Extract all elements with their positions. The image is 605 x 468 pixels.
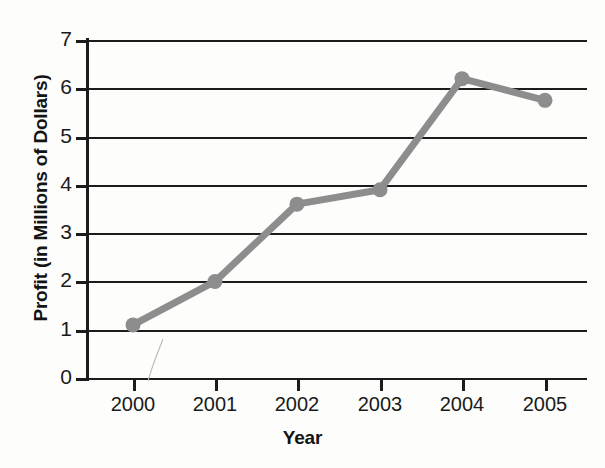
x-axis-title: Year (0, 427, 605, 449)
x-tick-label-2001: 2001 (179, 394, 251, 414)
x-tick-label-2002: 2002 (261, 394, 333, 414)
gridline-1 (88, 330, 587, 332)
y-tick-mark-6 (76, 88, 89, 91)
x-tick-mark-2002 (297, 378, 300, 391)
x-tick-mark-2005 (545, 378, 548, 391)
y-tick-label-7: 7 (38, 28, 72, 49)
x-tick-label-2000: 2000 (97, 394, 169, 414)
gridline-5 (88, 137, 587, 139)
plot-area (88, 40, 587, 378)
y-tick-mark-2 (76, 281, 89, 284)
y-tick-label-4: 4 (38, 173, 72, 194)
y-tick-label-5: 5 (38, 125, 72, 146)
gridline-4 (88, 185, 587, 187)
y-tick-mark-0 (76, 378, 89, 381)
gridline-3 (88, 233, 587, 235)
x-tick-label-2004: 2004 (426, 394, 498, 414)
x-tick-label-2005: 2005 (509, 394, 581, 414)
line-chart: Profit (in Millions of Dollars) Year 7 6… (0, 0, 605, 468)
gridline-7 (88, 40, 587, 42)
y-tick-mark-4 (76, 185, 89, 188)
y-tick-label-6: 6 (38, 76, 72, 97)
y-tick-label-0: 0 (38, 366, 72, 387)
y-axis-title: Profit (in Millions of Dollars) (18, 0, 64, 408)
y-tick-label-1: 1 (38, 318, 72, 339)
x-tick-mark-2001 (215, 378, 218, 391)
y-tick-mark-7 (76, 40, 89, 43)
y-tick-mark-5 (76, 137, 89, 140)
x-tick-mark-2000 (133, 378, 136, 391)
gridline-0 (88, 378, 587, 380)
x-tick-mark-2004 (462, 378, 465, 391)
y-tick-label-2: 2 (38, 269, 72, 290)
gridline-6 (88, 88, 587, 90)
y-tick-mark-3 (76, 233, 89, 236)
y-tick-label-3: 3 (38, 221, 72, 242)
x-tick-label-2003: 2003 (344, 394, 416, 414)
y-tick-mark-1 (76, 330, 89, 333)
x-tick-mark-2003 (380, 378, 383, 391)
gridline-2 (88, 281, 587, 283)
